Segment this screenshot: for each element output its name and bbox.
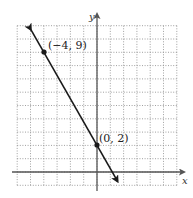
point-marker-a [41,49,46,54]
y-axis-label: y [88,11,95,22]
point-label-a: (−4, 9) [48,39,87,52]
point-label-b: (0, 2) [99,132,129,145]
x-axis-label: x [182,175,188,186]
coordinate-plane: x y (−4, 9) (0, 2) [0,0,193,198]
